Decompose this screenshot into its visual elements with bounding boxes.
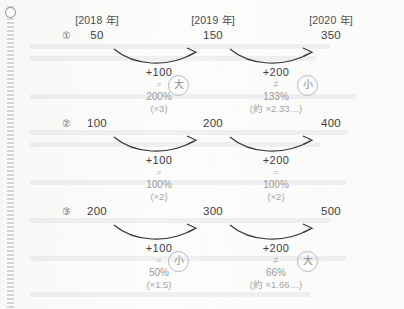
row-1-step-0-annotation: +100 = 100% (×2) [105,154,213,203]
row-2-step-0-annotation: +100 = 50% (×1.5) [105,242,213,291]
year-header-0: [2018 年] [52,12,142,27]
delta-value: +200 [222,154,330,167]
row-1-value-0: 100 [52,117,142,129]
year-header-1: [2019 年] [168,12,258,27]
magnitude-badge-small: 小 [168,251,189,272]
table-row: ② 100 200 400 +100 = 100% (×2) +200 = 10… [0,116,404,202]
magnitude-badge-large: 大 [168,75,189,96]
multiplier-value: (×2) [222,191,330,204]
delta-value: +100 [105,242,213,255]
percent-value: 50% [105,266,213,279]
relation-symbol: = [105,79,213,90]
relation-symbol: = [222,167,330,178]
worksheet-body: [2018 年] [2019 年] [2020 年] ① 50 150 350 … [0,0,404,309]
percent-value: 200% [105,90,213,103]
multiplier-value: (約 ×2.33…) [222,103,330,116]
percent-value: 100% [105,178,213,191]
multiplier-value: (×1.5) [105,279,213,292]
row-0-value-1: 150 [168,29,258,41]
table-row: ① 50 150 350 +100 = 200% (×3) 大 +200 ≠ 1… [0,28,404,114]
year-header-2: [2020 年] [286,12,376,27]
multiplier-value: (約 ×1.66…) [222,279,330,292]
delta-value: +100 [105,66,213,79]
row-2-value-2: 500 [286,205,376,217]
row-2-value-0: 200 [52,205,142,217]
magnitude-badge-large: 大 [297,251,318,272]
row-1-value-2: 400 [286,117,376,129]
delta-value: +100 [105,154,213,167]
table-row: ③ 200 300 500 +100 = 50% (×1.5) 小 +200 ≠… [0,204,404,290]
relation-symbol: = [105,167,213,178]
row-1-step-1-annotation: +200 = 100% (×2) [222,154,330,203]
row-0-value-0: 50 [52,29,142,41]
row-0-step-0-annotation: +100 = 200% (×3) [105,66,213,115]
percent-value: 100% [222,178,330,191]
row-2-value-1: 300 [168,205,258,217]
row-1-value-1: 200 [168,117,258,129]
multiplier-value: (×3) [105,103,213,116]
row-0-value-2: 350 [286,29,376,41]
multiplier-value: (×2) [105,191,213,204]
magnitude-badge-small: 小 [297,75,318,96]
relation-symbol: = [105,255,213,266]
notebook-page: [2018 年] [2019 年] [2020 年] ① 50 150 350 … [0,0,404,309]
